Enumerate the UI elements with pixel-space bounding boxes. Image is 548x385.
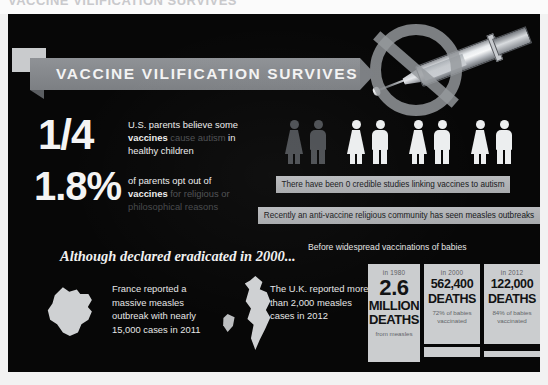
person-leg-part	[288, 153, 293, 164]
callout-measles-outbreaks: Recently an anti-vaccine religious commu…	[258, 207, 540, 224]
people-pair	[408, 120, 454, 164]
person-head-part	[414, 120, 423, 129]
deaths-bar-2000	[424, 347, 480, 357]
stat-figure-quarter: 1/4	[38, 114, 93, 156]
person-leg-part	[295, 153, 300, 164]
clipped-top-headline: VACCINE VILIFICATION SURVIVES	[0, 0, 548, 14]
person-body-part	[471, 130, 489, 154]
person-leg-part	[505, 148, 511, 164]
person-leg-part	[443, 148, 449, 164]
deaths-year-2000: in 2000	[424, 269, 480, 276]
people-pair	[346, 120, 392, 164]
stat-percent-dim: for religious or	[168, 188, 230, 199]
person-male-icon	[432, 120, 452, 164]
person-leg-part	[357, 153, 362, 164]
deaths-bar-2012	[484, 351, 540, 357]
stat-quarter-last: healthy children	[128, 145, 194, 156]
banner-fold-decoration	[30, 90, 44, 99]
poster-canvas: VACCINE VILIFICATION SURVIVES 1/4 U.S. p…	[8, 14, 540, 372]
deaths-unit1-1980: MILLION	[368, 299, 420, 313]
person-leg-part	[497, 148, 503, 164]
people-pictogram-row	[284, 120, 524, 164]
eradicated-headline: Although declared eradicated in 2000...	[60, 248, 296, 265]
person-male-icon	[308, 120, 328, 164]
clipped-headline-text: VACCINE VILIFICATION SURVIVES	[8, 0, 237, 8]
person-male-icon	[370, 120, 390, 164]
person-body-part	[347, 130, 365, 154]
person-female-icon	[470, 120, 490, 164]
person-leg-part	[350, 153, 355, 164]
banner-notch-decoration	[12, 72, 28, 86]
stat-percent-bold: vaccines	[128, 188, 168, 199]
france-map-icon	[42, 286, 100, 344]
deaths-panel-2000: in 2000 562,400 DEATHS 72% of babies vac…	[424, 264, 480, 344]
syringe-plunger-part	[492, 26, 532, 56]
deaths-unit1-2000: DEATHS	[424, 293, 480, 306]
france-report-text: France reported a massive measles outbre…	[112, 282, 220, 336]
deaths-unit2-1980: DEATHS	[368, 313, 420, 327]
person-leg-part	[412, 153, 417, 164]
deaths-section-label: Before widespread vaccinations of babies	[308, 242, 467, 252]
person-leg-part	[381, 148, 387, 164]
deaths-number-2000: 562,400	[424, 278, 480, 291]
title-banner: VACCINE VILIFICATION SURVIVES	[30, 58, 360, 90]
stat-percent-last: philosophical reasons	[128, 201, 218, 212]
person-leg-part	[311, 148, 317, 164]
people-pair	[470, 120, 516, 164]
deaths-panel-1980: in 1980 2.6 MILLION DEATHS from measles	[368, 264, 420, 362]
person-head-part	[476, 120, 485, 129]
person-head-part	[500, 120, 509, 129]
infographic-page: VACCINE VILIFICATION SURVIVES VACCINE VI…	[0, 0, 548, 385]
person-leg-part	[481, 153, 486, 164]
person-head-part	[438, 120, 447, 129]
person-leg-part	[435, 148, 441, 164]
person-female-icon	[284, 120, 304, 164]
stat-percent-description: of parents opt out of vaccines for relig…	[128, 174, 240, 214]
person-head-part	[376, 120, 385, 129]
stat-percent-lead: of parents opt out of	[128, 175, 211, 186]
deaths-unit1-2012: DEATHS	[484, 293, 540, 306]
deaths-note-2000: 72% of babies vaccinated	[424, 309, 480, 325]
uk-report-text: The U.K. reported more than 2,000 measle…	[270, 282, 370, 323]
person-leg-part	[373, 148, 379, 164]
person-male-icon	[494, 120, 514, 164]
person-leg-part	[474, 153, 479, 164]
deaths-note-1980: from measles	[368, 330, 420, 338]
person-body-part	[409, 130, 427, 154]
deaths-number-2012: 122,000	[484, 278, 540, 291]
person-head-part	[352, 120, 361, 129]
stat-quarter-lead: U.S. parents believe some	[128, 119, 238, 130]
person-body-part	[285, 130, 303, 154]
person-head-part	[314, 120, 323, 129]
ireland-map-icon	[222, 314, 236, 332]
person-body-part	[372, 130, 388, 150]
deaths-note-2012: 84% of babies vaccinated	[484, 309, 540, 325]
person-head-part	[290, 120, 299, 129]
stat-quarter-tail: in	[225, 132, 235, 143]
deaths-number-1980: 2.6	[368, 277, 420, 299]
stat-quarter-dim: cause autism	[168, 132, 226, 143]
deaths-year-2012: in 2012	[484, 269, 540, 276]
deaths-panel-2012: in 2012 122,000 DEATHS 84% of babies vac…	[484, 264, 540, 344]
person-body-part	[496, 130, 512, 150]
person-body-part	[310, 130, 326, 150]
stat-quarter-bold: vaccines	[128, 132, 168, 143]
person-leg-part	[419, 153, 424, 164]
people-pair	[284, 120, 330, 164]
person-body-part	[434, 130, 450, 150]
page-title: VACCINE VILIFICATION SURVIVES	[56, 65, 358, 83]
person-female-icon	[346, 120, 366, 164]
stat-figure-percent: 1.8%	[34, 166, 121, 206]
callout-no-credible-studies: There have been 0 credible studies linki…	[276, 176, 510, 193]
person-leg-part	[319, 148, 325, 164]
stat-quarter-description: U.S. parents believe some vaccines cause…	[128, 118, 240, 158]
person-female-icon	[408, 120, 428, 164]
